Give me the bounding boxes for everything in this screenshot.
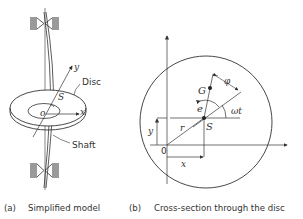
- s-label-b: S: [206, 121, 213, 132]
- r-label: r: [180, 123, 185, 133]
- y-axis-label-a: y: [73, 62, 80, 72]
- top-bearing-icon: [30, 17, 59, 30]
- y-label-b: y: [147, 126, 154, 136]
- shaft-leader-line: [53, 135, 70, 143]
- disc-leader-line: [74, 84, 80, 95]
- x-axis-label-a: x: [80, 107, 85, 117]
- e-label: e: [197, 103, 203, 114]
- caption-b-tag: (b): [129, 203, 141, 213]
- panel-b-cross-section: G e φ ωt r S 0 x y: [140, 36, 287, 188]
- caption-a-text: Simplified model: [28, 203, 100, 213]
- disc-label: Disc: [82, 77, 101, 87]
- omega-t-label: ωt: [231, 106, 242, 116]
- shaft-label: Shaft: [72, 140, 96, 150]
- shaft-center-label-a: S: [58, 92, 64, 102]
- omega-t-arc: [222, 105, 226, 118]
- caption-b-text: Cross-section through the disc: [154, 203, 285, 213]
- g-label: G: [198, 85, 206, 96]
- radius-line: [167, 118, 204, 145]
- origin-label-b: 0: [161, 146, 167, 156]
- phi-label: φ: [224, 76, 231, 86]
- bottom-bearing-icon: [30, 163, 59, 178]
- centre-of-gravity-point: [208, 86, 212, 90]
- panel-a-simplified-model: y x o S Disc Shaft: [10, 8, 101, 190]
- origin-label-a: o: [40, 108, 46, 118]
- eccentricity-line: [204, 74, 213, 118]
- caption-a-tag: (a): [4, 203, 16, 213]
- diagram-canvas: y x o S Disc Shaft: [0, 0, 303, 219]
- shaft-center-point: [202, 116, 206, 120]
- x-label-b: x: [181, 159, 186, 169]
